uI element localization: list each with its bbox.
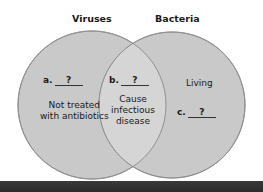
left-only-text: Not treated with antibiotics — [40, 100, 109, 122]
blank-b-letter: b. — [109, 75, 119, 85]
venn-diagram: Viruses Bacteria a.? Not treated with an… — [0, 0, 263, 192]
overlap-text: Cause infectious disease — [110, 94, 156, 127]
left-text-line-1: Not treated — [40, 100, 109, 111]
blank-a-answer: ? — [55, 76, 83, 86]
blank-b-answer: ? — [121, 76, 149, 86]
viruses-title: Viruses — [72, 13, 112, 24]
blank-a: a.? — [43, 75, 83, 86]
blank-a-letter: a. — [43, 75, 53, 85]
blank-b: b.? — [109, 75, 149, 86]
bottom-bar — [0, 181, 263, 192]
overlap-text-line-3: disease — [110, 116, 156, 127]
blank-c-letter: c. — [177, 107, 186, 117]
blank-c: c.? — [177, 107, 216, 118]
blank-c-answer: ? — [188, 108, 216, 118]
bacteria-title: Bacteria — [155, 13, 200, 24]
left-text-line-2: with antibiotics — [40, 111, 109, 122]
right-only-text: Living — [186, 78, 213, 89]
overlap-text-line-1: Cause — [110, 94, 156, 105]
overlap-text-line-2: infectious — [110, 105, 156, 116]
